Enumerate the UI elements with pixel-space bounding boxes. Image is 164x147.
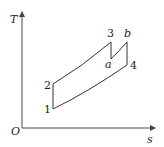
point-label-a: a xyxy=(105,58,112,71)
point-label-4: 4 xyxy=(130,59,137,72)
origin-label: O xyxy=(11,125,20,138)
path-a-b xyxy=(111,42,127,59)
path-4-1 xyxy=(53,65,127,109)
ts-diagram: T s O 1 2 3 a b 4 xyxy=(0,0,164,147)
path-2-3 xyxy=(53,42,111,84)
y-axis-label: T xyxy=(10,13,19,26)
point-label-3: 3 xyxy=(107,27,114,40)
x-axis-label: s xyxy=(147,133,153,146)
point-label-b: b xyxy=(124,27,131,40)
point-label-2: 2 xyxy=(44,79,51,92)
point-label-1: 1 xyxy=(44,103,51,116)
